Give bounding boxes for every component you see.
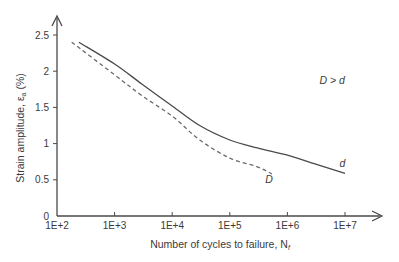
series-line-D bbox=[72, 42, 272, 174]
annotation-label: D bbox=[265, 173, 273, 185]
annotation-label: D > d bbox=[320, 74, 347, 86]
y-axis-label: Strain amplitude, εa (%) bbox=[14, 73, 27, 183]
x-axis-label-text: Number of cycles to failure, N bbox=[150, 238, 288, 250]
y-tick-label: 0.5 bbox=[35, 174, 49, 185]
x-tick-label: 1E+7 bbox=[333, 220, 357, 231]
y-tick-label: 2.5 bbox=[35, 30, 49, 41]
x-axis-label-subscript: f bbox=[288, 244, 291, 251]
y-axis-label-suffix: (%) bbox=[14, 73, 26, 92]
y-tick-label: 1 bbox=[43, 138, 49, 149]
y-axis-label-text: Strain amplitude, ε bbox=[14, 96, 26, 183]
y-tick-label: 1.5 bbox=[35, 102, 49, 113]
series-group bbox=[72, 42, 345, 174]
y-ticks: 00.511.522.5 bbox=[35, 30, 57, 222]
axes bbox=[52, 16, 382, 221]
x-axis-label: Number of cycles to failure, Nf bbox=[150, 238, 291, 251]
series-line-d bbox=[79, 42, 345, 173]
x-ticks: 1E+21E+31E+41E+51E+61E+7 bbox=[45, 212, 357, 231]
y-tick-label: 2 bbox=[43, 66, 49, 77]
x-tick-label: 1E+5 bbox=[218, 220, 242, 231]
x-tick-label: 1E+3 bbox=[103, 220, 127, 231]
y-tick-label: 0 bbox=[43, 211, 49, 222]
x-tick-label: 1E+2 bbox=[45, 220, 69, 231]
fatigue-life-chart: 1E+21E+31E+41E+51E+61E+7 00.511.522.5 dD… bbox=[0, 0, 399, 262]
annotations: dDD > d bbox=[265, 74, 346, 185]
annotation-label: d bbox=[339, 157, 346, 169]
x-tick-label: 1E+4 bbox=[160, 220, 184, 231]
x-tick-label: 1E+6 bbox=[276, 220, 300, 231]
